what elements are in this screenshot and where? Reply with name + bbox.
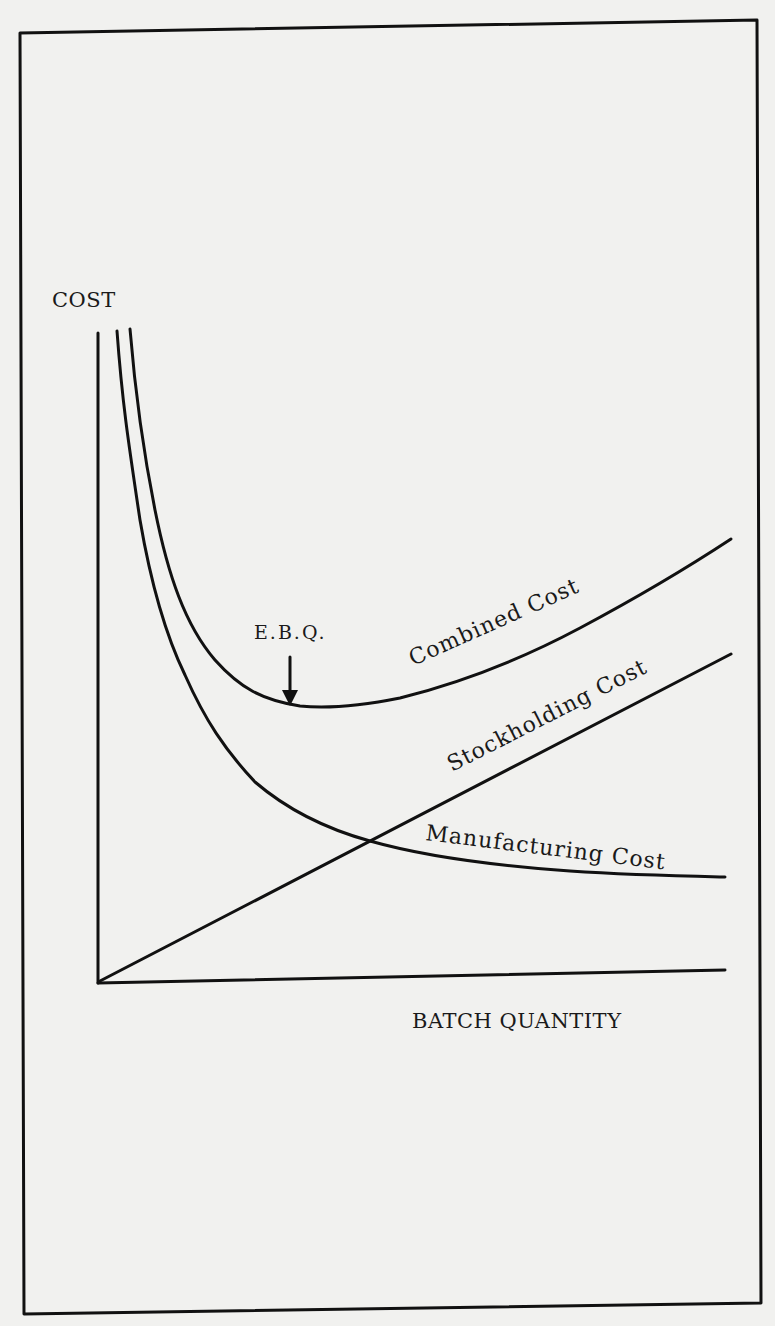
stockholding-cost-label: Stockholding Cost xyxy=(443,654,651,777)
x-axis xyxy=(98,970,725,983)
combined-cost-label: Combined Cost xyxy=(405,573,583,670)
ebq-diagram: COST BATCH QUANTITY E.B.Q. Combined Cost… xyxy=(0,0,775,1326)
manufacturing-cost-curve xyxy=(117,331,725,877)
manufacturing-cost-label: Manufacturing Cost xyxy=(424,820,667,874)
ebq-label: E.B.Q. xyxy=(254,621,327,643)
y-axis-label: COST xyxy=(52,288,116,312)
figure-page: COST BATCH QUANTITY E.B.Q. Combined Cost… xyxy=(0,0,775,1326)
ebq-arrow-icon xyxy=(282,657,298,706)
stockholding-cost-line xyxy=(100,654,731,981)
figure-frame xyxy=(20,20,761,1314)
x-axis-label: BATCH QUANTITY xyxy=(412,1009,622,1033)
